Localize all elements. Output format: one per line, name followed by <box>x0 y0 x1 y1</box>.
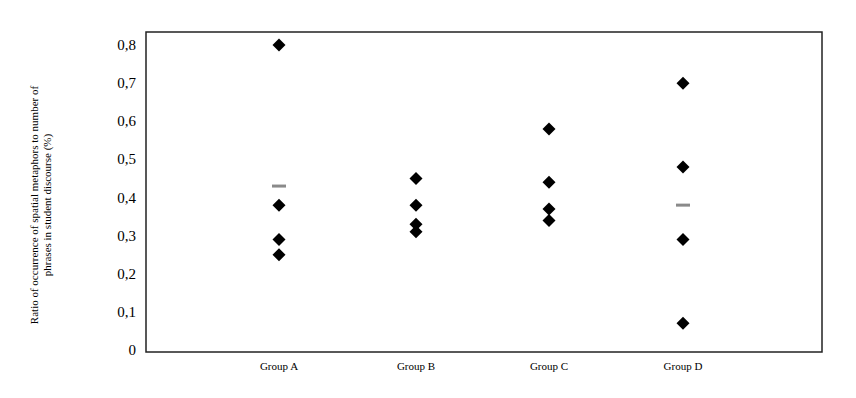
x-category-label: Group B <box>397 360 435 372</box>
y-tick-label: 0,8 <box>117 37 136 53</box>
y-tick-label: 0,3 <box>117 228 136 244</box>
diamond-marker <box>273 248 286 261</box>
scatter-chart: 00,10,20,30,40,50,60,70,8 Ratio of occur… <box>0 0 856 398</box>
diamond-marker <box>410 172 423 185</box>
diamond-marker <box>543 122 556 135</box>
diamond-marker <box>410 199 423 212</box>
x-category-label: Group A <box>260 360 298 372</box>
x-category-label: Group C <box>530 360 568 372</box>
diamond-marker <box>543 214 556 227</box>
y-tick-label: 0,6 <box>117 113 136 129</box>
diamond-marker <box>273 39 286 52</box>
data-points <box>272 39 690 330</box>
x-axis-categories: Group AGroup BGroup CGroup D <box>260 360 703 372</box>
y-tick-label: 0,4 <box>117 190 136 206</box>
diamond-marker <box>677 233 690 246</box>
plot-frame <box>146 32 822 352</box>
y-axis-label-line: phrases in student discourse (%) <box>41 133 54 276</box>
y-axis-label-line: Ratio of occurrence of spatial metaphors… <box>28 86 40 325</box>
diamond-marker <box>677 317 690 330</box>
y-tick-label: 0,5 <box>117 151 136 167</box>
y-tick-label: 0,1 <box>117 304 136 320</box>
plot-border <box>146 32 822 352</box>
x-category-label: Group D <box>664 360 703 372</box>
diamond-marker <box>677 77 690 90</box>
diamond-marker <box>543 202 556 215</box>
diamond-marker <box>273 199 286 212</box>
diamond-marker <box>677 161 690 174</box>
mean-dash-marker <box>272 185 286 188</box>
diamond-marker <box>543 176 556 189</box>
mean-dash-marker <box>676 204 690 207</box>
y-tick-label: 0,2 <box>117 266 136 282</box>
diamond-marker <box>410 225 423 238</box>
diamond-marker <box>273 233 286 246</box>
y-axis-ticks: 00,10,20,30,40,50,60,70,8 <box>117 37 136 358</box>
y-tick-label: 0,7 <box>117 75 136 91</box>
y-axis-label: Ratio of occurrence of spatial metaphors… <box>28 86 54 325</box>
y-tick-label: 0 <box>129 342 137 358</box>
